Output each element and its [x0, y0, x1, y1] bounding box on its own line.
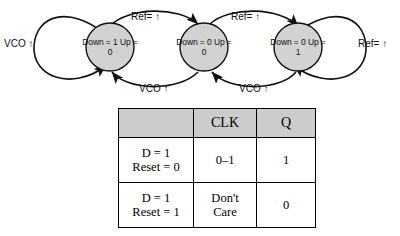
- state-up-label: Down = 0 Up = 1: [267, 37, 329, 57]
- truth-table-wrapper: CLK Q D = 1 Reset = 0 0–1 1 D = 1 Reset …: [118, 108, 316, 228]
- row1-q: 0: [257, 183, 316, 228]
- state-neutral-line1: Down = 0: [176, 37, 211, 47]
- header-condition: [119, 109, 194, 138]
- header-clk: CLK: [194, 109, 257, 138]
- state-neutral-label: Down = 0 Up = 0: [173, 37, 235, 57]
- figure-root: Down = 1 Up = 0 Down = 0 Up = 0 Down = 0…: [0, 0, 400, 236]
- row0-cond-line1: D = 1: [119, 146, 193, 160]
- row1-clk-line1: Don't: [194, 191, 256, 205]
- row1-clk: Don't Care: [194, 183, 257, 228]
- state-down-line1: Down = 1: [82, 37, 117, 47]
- self-loop-left-label: VCO ↑: [4, 38, 33, 49]
- self-loop-right-label: Ref= ↑: [358, 38, 387, 49]
- table-header-row: CLK Q: [119, 109, 316, 138]
- bottom-left-arc-label: VCO ↑: [139, 83, 168, 94]
- state-down-label: Down = 1 Up = 0: [79, 37, 141, 57]
- row1-cond-line2: Reset = 1: [119, 205, 193, 219]
- row0-clk: 0–1: [194, 138, 257, 183]
- top-left-arc-label: Ref= ↑: [131, 11, 160, 22]
- row0-q: 1: [257, 138, 316, 183]
- top-right-arc-label: Ref= ↑: [231, 11, 260, 22]
- row1-condition: D = 1 Reset = 1: [119, 183, 194, 228]
- header-q: Q: [257, 109, 316, 138]
- row1-cond-line1: D = 1: [119, 191, 193, 205]
- truth-table: CLK Q D = 1 Reset = 0 0–1 1 D = 1 Reset …: [118, 108, 316, 228]
- bottom-right-arc-label: VCO ↑: [239, 83, 268, 94]
- row1-clk-line2: Care: [194, 205, 256, 219]
- table-row: D = 1 Reset = 0 0–1 1: [119, 138, 316, 183]
- row0-condition: D = 1 Reset = 0: [119, 138, 194, 183]
- table-row: D = 1 Reset = 1 Don't Care 0: [119, 183, 316, 228]
- state-diagram: Down = 1 Up = 0 Down = 0 Up = 0 Down = 0…: [0, 0, 400, 104]
- row0-cond-line2: Reset = 0: [119, 160, 193, 174]
- state-up-line1: Down = 0: [270, 37, 305, 47]
